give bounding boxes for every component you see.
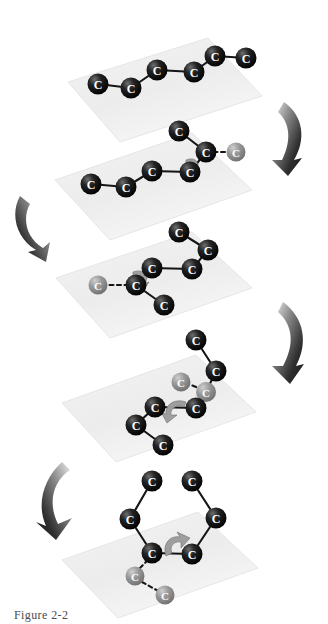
atom-label: C: [94, 280, 102, 292]
atom-carbon: C: [145, 397, 166, 418]
atom-label: C: [132, 279, 141, 293]
atom-label: C: [87, 178, 96, 192]
atom-label: C: [148, 262, 157, 276]
atom-label: C: [132, 419, 141, 433]
atom-label: C: [212, 365, 221, 379]
atom-carbon: C: [205, 46, 226, 67]
atom-label: C: [159, 439, 168, 453]
atom-label: C: [148, 547, 157, 561]
atom-label: C: [188, 475, 197, 489]
atom-label: C: [202, 387, 210, 399]
atom-carbon: C: [169, 121, 190, 142]
figure-caption: Figure 2-2: [14, 607, 314, 624]
atom-ghost: C: [89, 276, 108, 295]
atom-carbon: C: [198, 240, 219, 261]
atom-carbon: C: [153, 435, 174, 456]
atom-carbon: C: [116, 177, 137, 198]
atom-carbon: C: [196, 142, 217, 163]
atom-label: C: [122, 181, 131, 195]
atom-carbon: C: [147, 60, 168, 81]
atom-label: C: [190, 66, 199, 80]
atom-carbon: C: [180, 162, 201, 183]
atom-label: C: [212, 512, 221, 526]
atom-carbon: C: [126, 415, 147, 436]
atom-label: C: [148, 475, 157, 489]
big-arrow-3-right: [272, 302, 304, 384]
atom-carbon: C: [169, 222, 190, 243]
atom-carbon: C: [186, 330, 207, 351]
panel-5-closed-ring: C C C C C: [62, 471, 258, 619]
atom-carbon: C: [182, 544, 203, 565]
molecule-diagram: C C C C C: [0, 0, 328, 624]
panel-3-second-rotation: C C C C C: [56, 222, 252, 339]
atom-carbon: C: [186, 398, 207, 419]
atom-carbon: C: [184, 62, 205, 83]
atom-label: C: [160, 299, 169, 313]
atom-carbon: C: [142, 471, 163, 492]
atom-label: C: [151, 401, 160, 415]
atom-carbon: C: [142, 161, 163, 182]
atom-label: C: [188, 548, 197, 562]
atom-label: C: [211, 50, 220, 64]
atom-label: C: [232, 147, 240, 159]
atom-carbon: C: [142, 543, 163, 564]
atom-label: C: [161, 590, 169, 602]
big-arrow-2-left: [15, 196, 50, 262]
atom-label: C: [188, 263, 197, 277]
atom-carbon: C: [142, 258, 163, 279]
big-arrow-1-right: [272, 102, 302, 176]
atom-label: C: [175, 125, 184, 139]
atom-carbon: C: [88, 74, 109, 95]
atom-ghost: C: [227, 143, 246, 162]
atom-carbon: C: [154, 295, 175, 316]
atom-label: C: [192, 402, 201, 416]
atom-ghost: C: [172, 373, 191, 392]
panel-1-extended-chain: C C C C C: [68, 38, 262, 142]
atom-label: C: [175, 226, 184, 240]
atom-ghost: C: [126, 567, 145, 586]
atom-ghost: C: [156, 586, 175, 605]
atom-carbon: C: [236, 48, 257, 69]
atom-label: C: [126, 513, 135, 527]
atom-carbon: C: [182, 471, 203, 492]
atom-carbon: C: [120, 509, 141, 530]
panel-2-first-rotation: C C C C C: [55, 121, 252, 241]
atom-label: C: [204, 244, 213, 258]
atom-label: C: [192, 334, 201, 348]
atom-carbon: C: [206, 508, 227, 529]
atom-carbon: C: [206, 361, 227, 382]
atom-carbon: C: [182, 259, 203, 280]
atom-label: C: [131, 571, 139, 583]
atom-label: C: [148, 165, 157, 179]
atom-label: C: [127, 82, 136, 96]
atom-carbon: C: [121, 78, 142, 99]
atom-carbon: C: [81, 174, 102, 195]
atom-carbon: C: [126, 275, 147, 296]
panel-4-third-rotation: C C C C C: [62, 330, 256, 463]
atom-label: C: [186, 166, 195, 180]
atom-label: C: [177, 377, 185, 389]
reference-plane: [56, 232, 252, 338]
atom-label: C: [153, 64, 162, 78]
atom-label: C: [94, 78, 103, 92]
figure-container: C C C C C: [0, 0, 328, 624]
atom-label: C: [242, 52, 251, 66]
big-arrow-4-left: [36, 462, 72, 540]
atom-label: C: [202, 146, 211, 160]
